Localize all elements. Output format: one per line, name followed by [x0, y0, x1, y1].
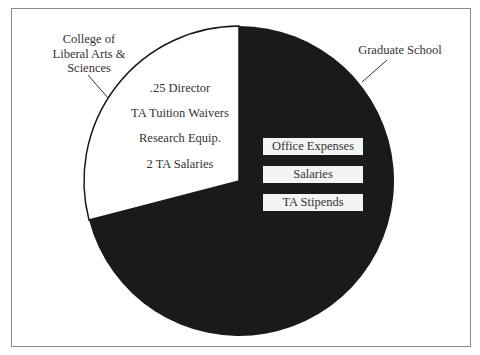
item-director: .25 Director: [120, 81, 240, 96]
label-cla-line2: Liberal Arts &: [44, 47, 134, 62]
box-ta-stipends: TA Stipends: [263, 194, 363, 211]
label-cla-line1: College of: [44, 32, 134, 47]
item-research-equip: Research Equip.: [120, 131, 240, 146]
label-graduate-school: Graduate School: [345, 43, 455, 58]
item-tuition-waivers: TA Tuition Waivers: [120, 106, 240, 121]
label-cla: College of Liberal Arts & Sciences: [44, 32, 134, 76]
box-office-expenses: Office Expenses: [263, 138, 363, 155]
box-salaries: Salaries: [263, 166, 363, 183]
label-cla-line3: Sciences: [44, 61, 134, 76]
leader-line-cla: [88, 75, 108, 98]
leader-line-grad: [362, 60, 387, 82]
item-ta-salaries: 2 TA Salaries: [120, 157, 240, 172]
